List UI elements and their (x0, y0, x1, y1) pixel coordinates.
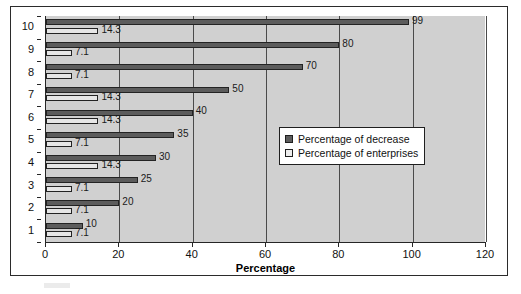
legend-label: Percentage of decrease (298, 133, 410, 145)
bar-percentage-of-enterprises (46, 50, 72, 56)
y-axis-tick (37, 84, 41, 85)
bar-value-label: 7.1 (75, 70, 89, 80)
chart-row: 9914.3 (46, 16, 485, 39)
x-axis-title: Percentage (45, 262, 486, 274)
legend-item: Percentage of enterprises (285, 146, 418, 160)
bar-percentage-of-decrease (46, 42, 339, 48)
legend-item: Percentage of decrease (285, 132, 418, 146)
bar-value-label: 14.3 (101, 160, 120, 170)
chart-legend: Percentage of decreasePercentage of ente… (279, 127, 425, 165)
x-axis-tick (485, 243, 486, 247)
y-axis-tick-label: 5 (28, 134, 34, 145)
y-axis-tick (37, 174, 41, 175)
bar-value-label: 25 (141, 174, 152, 184)
x-axis-tick (118, 243, 119, 247)
bar-value-label: 80 (342, 39, 353, 49)
y-axis-tick-label: 1 (28, 225, 34, 236)
scan-artifact (44, 283, 70, 288)
legend-swatch-icon (285, 135, 293, 143)
bar-percentage-of-decrease (46, 177, 138, 183)
bar-value-label: 14.3 (101, 92, 120, 102)
x-axis-tick (338, 243, 339, 247)
bar-percentage-of-decrease (46, 132, 174, 138)
bar-percentage-of-enterprises (46, 208, 72, 214)
bar-value-label: 50 (232, 84, 243, 94)
bar-value-label: 35 (177, 129, 188, 139)
y-axis-tick (37, 61, 41, 62)
x-axis-tick-label: 0 (42, 249, 48, 260)
y-axis-tick-label: 8 (28, 67, 34, 78)
bar-percentage-of-enterprises (46, 95, 98, 101)
bar-percentage-of-enterprises (46, 231, 72, 237)
x-axis-tick-label: 40 (186, 249, 198, 260)
y-axis-tick-label: 3 (28, 180, 34, 191)
chart-row: 707.1 (46, 61, 485, 84)
x-axis-tick (412, 243, 413, 247)
x-axis-tick-label: 80 (332, 249, 344, 260)
y-axis-tick (37, 129, 41, 130)
bar-value-label: 7.1 (75, 183, 89, 193)
bar-percentage-of-enterprises (46, 141, 72, 147)
bar-percentage-of-enterprises (46, 186, 72, 192)
x-axis-tick-label: 20 (112, 249, 124, 260)
y-axis-tick-label: 6 (28, 112, 34, 123)
bar-value-label: 20 (122, 197, 133, 207)
bar-percentage-of-enterprises (46, 118, 98, 124)
x-axis-tick (192, 243, 193, 247)
bar-value-label: 7.1 (75, 138, 89, 148)
y-axis-tick (37, 39, 41, 40)
y-axis-tick (37, 219, 41, 220)
x-axis-tick-label: 120 (476, 249, 494, 260)
x-axis-tick-label: 100 (402, 249, 420, 260)
y-axis: 10987654321 (11, 16, 41, 242)
chart-frame: 10987654321 9914.3807.1707.15014.34014.3… (10, 6, 508, 276)
legend-swatch-icon (285, 149, 293, 157)
chart-row: 4014.3 (46, 106, 485, 129)
bar-value-label: 99 (412, 16, 423, 26)
x-axis-tick (265, 243, 266, 247)
chart-row: 107.1 (46, 219, 485, 242)
x-axis-tick-label: 60 (259, 249, 271, 260)
y-axis-tick (37, 197, 41, 198)
bar-value-label: 70 (306, 61, 317, 71)
y-axis-tick-label: 4 (28, 157, 34, 168)
bar-percentage-of-enterprises (46, 28, 98, 34)
y-axis-tick (37, 106, 41, 107)
legend-label: Percentage of enterprises (298, 147, 418, 159)
y-axis-tick-label: 9 (28, 44, 34, 55)
bar-percentage-of-enterprises (46, 163, 98, 169)
x-axis-tick (45, 243, 46, 247)
y-axis-tick-label: 2 (28, 202, 34, 213)
chart-row: 207.1 (46, 197, 485, 220)
y-axis-tick-label: 7 (28, 89, 34, 100)
bar-percentage-of-enterprises (46, 73, 72, 79)
y-axis-tick-label: 10 (22, 21, 34, 32)
bar-value-label: 30 (159, 152, 170, 162)
bar-value-label: 7.1 (75, 228, 89, 238)
gridline (486, 16, 487, 242)
y-axis-tick (37, 16, 41, 17)
y-axis-tick (37, 242, 41, 243)
bar-value-label: 40 (196, 106, 207, 116)
chart-row: 257.1 (46, 174, 485, 197)
chart-row: 5014.3 (46, 84, 485, 107)
bar-value-label: 7.1 (75, 205, 89, 215)
chart-row: 807.1 (46, 39, 485, 62)
bar-percentage-of-decrease (46, 87, 229, 93)
bar-value-label: 7.1 (75, 47, 89, 57)
bar-value-label: 14.3 (101, 115, 120, 125)
y-axis-tick (37, 152, 41, 153)
bar-value-label: 14.3 (101, 25, 120, 35)
